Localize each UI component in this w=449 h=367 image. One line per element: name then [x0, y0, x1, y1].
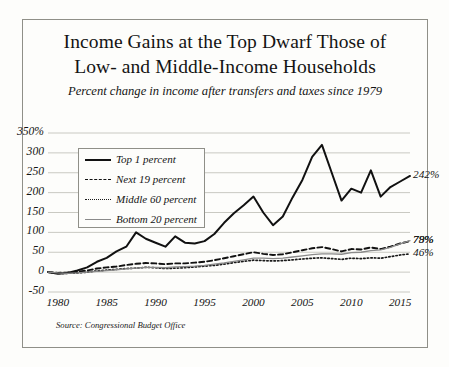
x-axis-tick-label: 1985: [87, 296, 127, 308]
legend-item-label: Top 1 percent: [116, 153, 176, 165]
y-axis-tick-label: 300: [27, 145, 44, 158]
y-axis-tick-label: 0: [38, 264, 44, 277]
y-axis-tick-label: 50: [32, 244, 44, 257]
chart-legend: Top 1 percentNext 19 percentMiddle 60 pe…: [78, 148, 205, 228]
x-axis-tick-label: 1995: [185, 296, 225, 308]
x-axis-tick-label: 2000: [233, 296, 273, 308]
x-axis-tick-label: 2005: [282, 296, 322, 308]
legend-line-swatch-icon: [85, 153, 111, 165]
figure-container: Income Gains at the Top Dwarf Those of L…: [0, 0, 449, 367]
legend-item-label: Bottom 20 percent: [116, 213, 197, 225]
y-axis-tick-label: 250: [27, 165, 44, 178]
series-end-label: 78%: [413, 233, 434, 245]
y-axis-tick-label: 100: [27, 224, 44, 237]
x-axis-tick-label: 1990: [136, 296, 176, 308]
x-axis-tick-label: 1980: [38, 296, 78, 308]
series-line-bottom-20-percent: [48, 241, 410, 274]
legend-item-1[interactable]: Next 19 percent: [79, 169, 204, 189]
legend-item-2[interactable]: Middle 60 percent: [79, 189, 204, 209]
legend-item-label: Next 19 percent: [116, 173, 185, 185]
y-axis-tick-label: 200: [27, 185, 44, 198]
legend-line-swatch-icon: [85, 213, 111, 225]
series-end-label: 46%: [413, 246, 434, 258]
chart-plot-area: [0, 0, 449, 367]
chart-source-note: Source: Congressional Budget Office: [56, 320, 185, 330]
series-end-label: 242%: [413, 168, 439, 180]
legend-item-3[interactable]: Bottom 20 percent: [79, 209, 204, 229]
y-axis-tick-label: 350%: [17, 125, 44, 138]
legend-item-label: Middle 60 percent: [116, 193, 196, 205]
series-line-next-19-percent: [48, 241, 410, 273]
legend-line-swatch-icon: [85, 193, 111, 205]
legend-line-swatch-icon: [85, 173, 111, 185]
x-axis-tick-label: 2015: [380, 296, 420, 308]
y-axis-tick-label: 150: [27, 205, 44, 218]
legend-item-0[interactable]: Top 1 percent: [79, 149, 204, 169]
x-axis-tick-label: 2010: [331, 296, 371, 308]
